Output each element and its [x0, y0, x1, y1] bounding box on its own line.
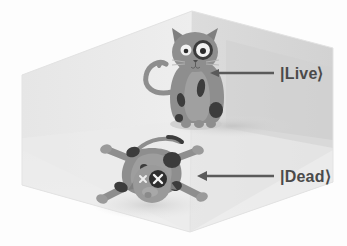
live-cat-paw-left: [181, 120, 191, 128]
figure-canvas: |Live⟩ |Dead⟩: [0, 0, 347, 246]
live-cat-eye-left-pupil: [184, 49, 189, 54]
dead-state-label: |Dead⟩: [280, 168, 331, 185]
live-cat-paw-side: [206, 120, 216, 128]
live-cat-spot-3: [209, 102, 223, 118]
dead-cat-tongue: [145, 192, 152, 198]
live-cat-spot-4: [175, 114, 183, 122]
dead-cat-spot-2: [163, 152, 181, 168]
live-state-label: |Live⟩: [280, 65, 324, 82]
live-cat-paw-right: [194, 120, 204, 128]
schrodinger-cat-figure: |Live⟩ |Dead⟩: [0, 0, 347, 246]
live-cat-eye-right-pupil: [200, 48, 206, 54]
